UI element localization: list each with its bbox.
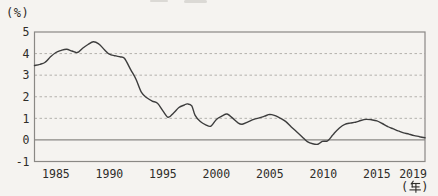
gridlines xyxy=(35,54,426,119)
x-axis-labels: 19851990199520002005201020152019 xyxy=(42,167,427,181)
y-tick-label: 3 xyxy=(23,68,30,82)
unit-char: ) xyxy=(421,181,428,193)
chart-figure: (%) 543210-1 198519901995200020052010201… xyxy=(0,0,438,196)
year-kanji-glyph xyxy=(409,180,421,193)
x-axis-unit-label: () xyxy=(401,180,428,193)
line-chart: 543210-1 1985199019952000200520102015201… xyxy=(0,0,438,196)
y-tick-label: 4 xyxy=(23,47,30,61)
y-tick-label: 0 xyxy=(23,133,30,147)
x-tick-label: 1985 xyxy=(42,167,70,181)
y-tick-label: -1 xyxy=(16,155,30,169)
data-line xyxy=(35,42,426,145)
x-tick-label: 2015 xyxy=(363,167,391,181)
x-tick-label: 2010 xyxy=(310,167,338,181)
unit-char: ( xyxy=(401,181,408,193)
x-tick-label: 2000 xyxy=(203,167,231,181)
y-tick-label: 2 xyxy=(23,90,30,104)
y-axis-labels: 543210-1 xyxy=(16,25,30,169)
x-tick-label: 1995 xyxy=(149,167,177,181)
y-tick-label: 1 xyxy=(23,112,30,126)
x-tick-label: 1990 xyxy=(96,167,124,181)
y-tick-label: 5 xyxy=(23,25,30,39)
x-tick-label: 2005 xyxy=(256,167,284,181)
x-tick-label: 2019 xyxy=(399,167,427,181)
